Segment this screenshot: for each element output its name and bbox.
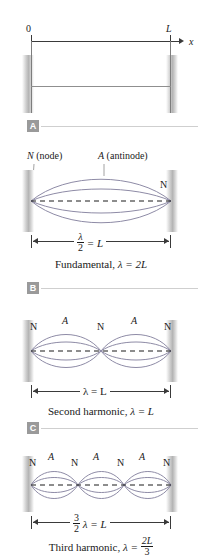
dimension-arrow-right: [164, 388, 169, 394]
dimension-cap-right: [170, 385, 171, 398]
dimension-cap-right: [170, 235, 171, 248]
axis-origin-label: 0: [26, 24, 31, 34]
panel-badge-a: A: [27, 120, 39, 132]
panel-badge-b: B: [27, 282, 39, 294]
dimension-cap-left: [31, 516, 32, 529]
post-right: [170, 41, 171, 113]
dimension-equation: λ = L: [80, 386, 110, 397]
wall-right: [166, 55, 178, 113]
axis-line: [31, 41, 181, 42]
panel-badge-row-b: B: [0, 282, 202, 296]
dimension-arrow-left: [33, 238, 38, 244]
panel-rule-b: [41, 288, 198, 289]
panel-b-fundamental: N (node) A (antinode) N: [0, 140, 202, 280]
node-label-right: N: [160, 180, 167, 190]
caption-fundamental: Fundamental, λ = 2L: [0, 258, 202, 270]
wall-left: [22, 55, 34, 113]
fraction-numerator: 2L: [141, 536, 154, 546]
panel-rule-c: [41, 428, 198, 429]
fraction-numerator: 3: [73, 513, 80, 523]
caption-equation: λ = L: [130, 405, 154, 417]
panel-c-second-harmonic: N A N A N λ = L Second harmonic, λ = L: [0, 302, 202, 420]
dimension-relation: λ = L: [83, 518, 107, 530]
caption-third-harmonic: Third harmonic, λ = 2L 3: [0, 536, 202, 557]
panel-rule-a: [41, 126, 198, 127]
dimension-arrow-right: [164, 519, 169, 525]
fraction-denominator: 2: [73, 523, 80, 534]
fraction-denominator: 2: [77, 242, 84, 253]
dimension-equation: λ 2 = L: [74, 232, 106, 253]
panel-a-rest-string: 0 L x: [0, 0, 202, 130]
dimension-relation: = L: [87, 237, 103, 249]
caption-second-harmonic: Second harmonic, λ = L: [0, 405, 202, 417]
dimension-cap-left: [31, 235, 32, 248]
panel-badge-row-c: C: [0, 422, 202, 436]
lambda-over-two: λ 2: [77, 232, 84, 253]
caption-name: Second harmonic,: [48, 405, 127, 417]
panel-badge-c: C: [27, 422, 39, 434]
dimension-cap-right: [170, 516, 171, 529]
caption-name: Fundamental,: [55, 258, 115, 270]
axis-length-label: L: [166, 24, 172, 34]
axis-arrowhead: [179, 38, 184, 44]
three-over-two: 3 2: [73, 513, 80, 534]
panel-badge-row-a: A: [0, 120, 202, 134]
fraction-numerator: λ: [77, 232, 84, 242]
two-l-over-three: 2L 3: [141, 536, 154, 557]
caption-name: Third harmonic,: [49, 541, 120, 553]
dimension-equation: 3 2 λ = L: [70, 513, 110, 534]
wave-second-harmonic: [0, 302, 202, 420]
post-left: [31, 41, 32, 113]
dimension-arrow-right: [164, 238, 169, 244]
dimension-arrow-left: [33, 388, 38, 394]
fraction-denominator: 3: [141, 546, 154, 557]
caption-equation: λ = 2L: [118, 258, 147, 270]
caption-equation-lead: λ =: [123, 541, 138, 553]
panel-d-third-harmonic: N A N A N A N 3 2 λ = L: [0, 440, 202, 552]
axis-name-label: x: [189, 37, 193, 47]
dimension-arrow-left: [33, 519, 38, 525]
dimension-cap-left: [31, 385, 32, 398]
string-at-rest: [31, 86, 171, 87]
